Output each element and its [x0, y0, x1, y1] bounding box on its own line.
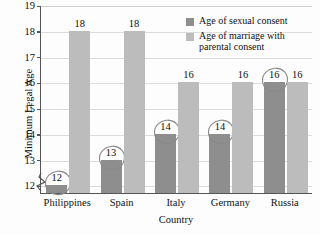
bar-value-label: 16 — [172, 69, 206, 80]
bar-value-label: 18 — [63, 18, 97, 29]
y-tick-label: 14 — [25, 127, 36, 143]
bar — [178, 82, 199, 193]
bar-value-label: 16 — [226, 69, 260, 80]
bar — [287, 82, 308, 193]
bar — [46, 185, 67, 193]
legend-swatch-icon-dark — [186, 18, 194, 26]
y-tick-label: 19 — [25, 0, 36, 14]
x-tick-label: Russia — [243, 197, 320, 208]
legend-item-sexual-consent: Age of sexual consent — [186, 15, 314, 27]
x-axis-title: Country — [40, 214, 312, 225]
bar — [124, 31, 145, 193]
legend-label-marriage-consent: Age of marriage with parental consent — [199, 30, 314, 53]
y-tick-label: 17 — [25, 50, 36, 66]
bar — [69, 31, 90, 193]
y-tick-label: 15 — [25, 101, 36, 117]
legend-swatch-icon-light — [186, 33, 194, 41]
legend-item-marriage-consent: Age of marriage with parental consent — [186, 30, 314, 53]
bar — [264, 82, 285, 193]
bar — [232, 82, 253, 193]
bar-value-label: 18 — [117, 18, 151, 29]
bar-chart: Minimum Legal Age 1213141516171819 12181… — [0, 0, 320, 235]
bar — [155, 134, 176, 193]
bar — [101, 160, 122, 193]
chart-legend: Age of sexual consent Age of marriage wi… — [186, 15, 314, 56]
y-tick-label: 18 — [25, 24, 36, 40]
y-tick-label: 13 — [25, 153, 36, 169]
y-tick-label: 16 — [25, 75, 36, 91]
y-tick-label: 12 — [25, 178, 36, 194]
bar-value-label: 16 — [280, 69, 314, 80]
legend-label-sexual-consent: Age of sexual consent — [199, 15, 288, 27]
bar — [209, 134, 230, 193]
